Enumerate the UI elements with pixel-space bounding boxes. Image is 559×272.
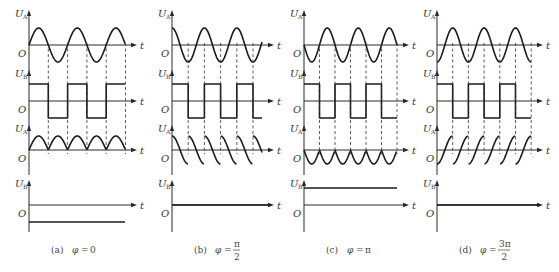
ub-axis-subscript: B: [298, 73, 303, 80]
arrow-right-icon: [403, 43, 409, 47]
arrow-up-icon: [435, 180, 439, 186]
panel-caption-b: (b)φ=π2: [194, 239, 240, 262]
caption-equals: =: [356, 245, 364, 255]
origin-label: O: [293, 208, 301, 219]
origin-label: O: [161, 208, 169, 219]
arrow-up-icon: [27, 10, 31, 16]
product-waveform-segment: [304, 150, 319, 164]
arrow-right-icon: [131, 43, 137, 47]
arrow-up-icon: [435, 10, 439, 16]
arrow-up-icon: [27, 180, 31, 186]
arrow-up-icon: [27, 125, 31, 131]
caption-numerator: 3π: [499, 239, 511, 249]
t-axis-label: t: [412, 96, 417, 107]
ua-axis-subscript: A: [22, 13, 28, 20]
dc-output-axis-subscript: B: [166, 183, 171, 190]
product-waveform-segment: [68, 136, 87, 149]
product-axis-subscript: A: [430, 128, 436, 135]
t-axis-label: t: [546, 200, 551, 211]
arrow-up-icon: [302, 70, 306, 76]
arrow-right-icon: [131, 148, 137, 152]
arrow-up-icon: [435, 70, 439, 76]
t-axis-label: t: [412, 40, 417, 51]
t-axis-label: t: [140, 96, 145, 107]
product-waveform-segment: [382, 150, 397, 164]
caption-phi: φ: [480, 245, 487, 255]
arrow-right-icon: [268, 99, 274, 103]
product-axis-subscript: A: [165, 128, 171, 135]
origin-label: O: [161, 153, 169, 164]
ua-axis-subscript: A: [165, 13, 171, 20]
t-axis-label: t: [140, 145, 145, 156]
arrow-up-icon: [170, 70, 174, 76]
panel-a: UAOtUBOtUAOtUBOt(a)φ=0: [15, 8, 145, 255]
arrow-right-icon: [268, 148, 274, 152]
arrow-up-icon: [170, 10, 174, 16]
ub-axis-subscript: B: [431, 73, 436, 80]
ub-axis-subscript: B: [23, 73, 28, 80]
caption-numerator: π: [234, 239, 240, 249]
caption-equals: =: [489, 245, 497, 255]
arrow-right-icon: [131, 99, 137, 103]
caption-label: (b): [194, 245, 207, 255]
t-axis-label: t: [412, 200, 417, 211]
t-axis-label: t: [140, 200, 145, 211]
product-waveform-segment: [29, 136, 48, 150]
origin-label: O: [293, 153, 301, 164]
caption-phi: φ: [347, 245, 354, 255]
origin-label: O: [426, 208, 434, 219]
caption-value: 0: [90, 245, 96, 255]
t-axis-label: t: [546, 96, 551, 107]
product-waveform-segment: [351, 150, 366, 164]
origin-label: O: [426, 48, 434, 59]
arrow-up-icon: [302, 10, 306, 16]
origin-label: O: [18, 104, 26, 115]
arrow-up-icon: [302, 180, 306, 186]
panel-c: UAOtUBOtUAOtUBOt(c)φ=π: [290, 8, 417, 255]
caption-label: (a): [51, 245, 63, 255]
origin-label: O: [161, 104, 169, 115]
origin-label: O: [426, 153, 434, 164]
origin-label: O: [18, 153, 26, 164]
origin-label: O: [426, 104, 434, 115]
arrow-up-icon: [302, 125, 306, 131]
t-axis-label: t: [546, 40, 551, 51]
panel-caption-a: (a)φ=0: [51, 245, 96, 255]
origin-label: O: [18, 208, 26, 219]
caption-phi: φ: [72, 245, 79, 255]
caption-value: π: [365, 245, 371, 255]
product-waveform-segment: [366, 150, 381, 164]
arrow-right-icon: [537, 99, 543, 103]
t-axis-label: t: [412, 145, 417, 156]
t-axis-label: t: [277, 145, 282, 156]
ua-axis-subscript: A: [430, 13, 436, 20]
panel-b: UAOtUBOtUAOtUBOt(b)φ=π2: [158, 8, 282, 262]
arrow-right-icon: [403, 99, 409, 103]
dc-output-axis-subscript: B: [23, 183, 28, 190]
product-waveform-segment: [320, 150, 335, 164]
caption-phi: φ: [215, 245, 222, 255]
origin-label: O: [18, 48, 26, 59]
arrow-right-icon: [537, 148, 543, 152]
caption-label: (d): [459, 245, 472, 255]
t-axis-label: t: [277, 200, 282, 211]
arrow-right-icon: [403, 203, 409, 207]
ua-axis-subscript: A: [297, 13, 303, 20]
arrow-up-icon: [170, 125, 174, 131]
ub-axis-subscript: B: [166, 73, 171, 80]
caption-denominator: 2: [502, 252, 508, 262]
product-waveform-segment: [335, 150, 350, 164]
dc-output-axis-subscript: B: [298, 183, 303, 190]
dc-output-axis-subscript: B: [431, 183, 436, 190]
arrow-right-icon: [131, 203, 137, 207]
product-waveform-segment: [87, 136, 106, 150]
caption-equals: =: [81, 245, 89, 255]
panel-caption-c: (c)φ=π: [326, 245, 371, 255]
t-axis-label: t: [277, 96, 282, 107]
phase-detector-waveform-diagram: UAOtUBOtUAOtUBOt(a)φ=0UAOtUBOtUAOtUBOt(b…: [0, 0, 559, 272]
product-axis-subscript: A: [22, 128, 28, 135]
panel-d: UAOtUBOtUAOtUBOt(d)φ=3π2: [423, 8, 551, 262]
panel-caption-d: (d)φ=3π2: [459, 239, 511, 262]
t-axis-label: t: [140, 40, 145, 51]
panels-group: UAOtUBOtUAOtUBOt(a)φ=0UAOtUBOtUAOtUBOt(b…: [15, 8, 551, 262]
